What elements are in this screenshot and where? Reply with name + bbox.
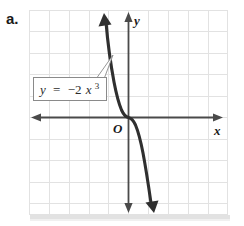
grid-shadow-soft	[30, 219, 230, 221]
equation-variable: x	[85, 82, 92, 97]
y-axis-label: y	[132, 13, 140, 28]
equation-text: y = −2 x 3	[38, 81, 100, 97]
figure-container: a.	[0, 0, 244, 226]
equation-callout: y = −2 x 3	[34, 78, 107, 101]
equation-lhs: y	[38, 82, 46, 97]
equation-equals: =	[53, 82, 60, 97]
origin-label: O	[113, 121, 123, 136]
equation-coefficient: −2	[68, 82, 82, 97]
x-axis-label: x	[213, 123, 221, 138]
equation-exponent: 3	[95, 81, 100, 91]
grid-shadow	[30, 215, 230, 219]
graph-canvas: y x O y = −2 x 3	[0, 0, 244, 226]
